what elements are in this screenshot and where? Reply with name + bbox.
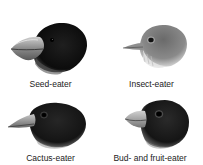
- seed-eater-finch-icon: [0, 0, 101, 80]
- cactus-eater-finch-icon: [0, 82, 101, 162]
- panel-cactus-eater: Cactus-eater: [0, 82, 101, 165]
- cactus-eater-label: Cactus-eater: [0, 153, 101, 163]
- panel-bud-and-fruit-eater: Bud- and fruit-eater: [101, 82, 202, 165]
- insect-eater-finch-icon: [101, 0, 202, 80]
- panel-insect-eater: Insect-eater: [101, 0, 202, 82]
- bud-and-fruit-eater-finch-icon: [101, 82, 202, 162]
- bud-and-fruit-eater-label: Bud- and fruit-eater: [95, 153, 203, 163]
- panel-seed-eater: Seed-eater: [0, 0, 101, 82]
